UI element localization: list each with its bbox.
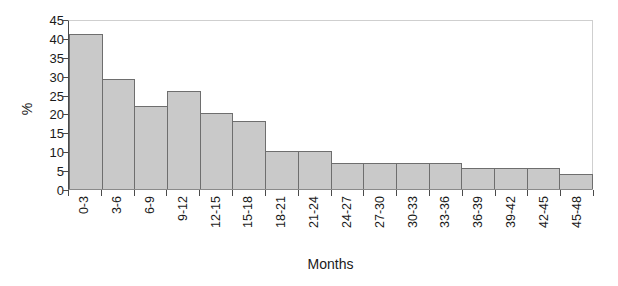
x-axis-tick-label-slot: 39-42 (494, 196, 528, 252)
plot-area (68, 20, 593, 190)
bar (102, 79, 136, 189)
y-axis-tick-label: 0 (40, 184, 64, 197)
x-axis-tick-label: 0-3 (78, 196, 91, 214)
x-axis-tick-label-slot: 12-15 (199, 196, 233, 252)
x-axis-tick-label-slot: 30-33 (396, 196, 430, 252)
bar (134, 106, 168, 189)
x-axis-tick-label-slot: 9-12 (166, 196, 200, 252)
y-axis-tick-label: 35 (40, 51, 64, 64)
y-axis-tick-label: 10 (40, 146, 64, 159)
y-axis-tick-label: 45 (40, 14, 64, 27)
x-axis-tick-label: 21-24 (308, 196, 321, 228)
bar (298, 151, 332, 189)
bar-chart: % 454035302520151050 0-33-66-99-1212-151… (0, 0, 618, 286)
bar (331, 163, 365, 189)
bar (200, 113, 234, 189)
bar (527, 168, 561, 189)
bar (363, 163, 397, 189)
bar-series (69, 21, 592, 189)
bar (265, 151, 299, 189)
y-axis-tick-label: 20 (40, 108, 64, 121)
x-axis-tick-label: 45-48 (570, 196, 583, 228)
y-axis-tick-label: 25 (40, 89, 64, 102)
x-axis-tick-label: 9-12 (176, 196, 189, 221)
bar (232, 121, 266, 189)
x-axis-tick-label-slot: 21-24 (297, 196, 331, 252)
x-axis-tick-label-slot: 36-39 (461, 196, 495, 252)
y-axis-tick-label: 40 (40, 32, 64, 45)
x-axis-tick-label: 27-30 (373, 196, 386, 228)
x-axis-tick-label: 3-6 (111, 196, 124, 214)
bar (461, 168, 495, 189)
bar (429, 163, 463, 189)
x-axis-tick-label: 42-45 (537, 196, 550, 228)
x-axis-tick-labels: 0-33-66-99-1212-1515-1818-2121-2424-2727… (68, 196, 593, 252)
y-axis-tick-labels: 454035302520151050 (40, 12, 64, 196)
x-axis-tick-label: 33-36 (439, 196, 452, 228)
x-axis-tick-label: 39-42 (504, 196, 517, 228)
y-axis-tick-label: 15 (40, 127, 64, 140)
bar (559, 174, 593, 189)
bar (167, 91, 201, 189)
x-axis-tick-label-slot: 15-18 (231, 196, 265, 252)
x-axis-tick-label-slot: 45-48 (560, 196, 594, 252)
y-axis-title: % (10, 92, 44, 126)
x-axis-tick-label: 15-18 (242, 196, 255, 228)
x-axis-tick-label: 18-21 (275, 196, 288, 228)
x-axis-tick-label-slot: 33-36 (428, 196, 462, 252)
bar (494, 168, 528, 189)
x-axis-tick-label-slot: 27-30 (363, 196, 397, 252)
x-axis-tick-label: 12-15 (209, 196, 222, 228)
x-axis-tick-label-slot: 42-45 (527, 196, 561, 252)
x-axis-tick-label: 36-39 (472, 196, 485, 228)
x-axis-tick-label-slot: 0-3 (67, 196, 101, 252)
x-axis-tick-label: 30-33 (406, 196, 419, 228)
bar (69, 34, 103, 189)
bar (396, 163, 430, 189)
x-axis-title: Months (68, 256, 593, 272)
x-axis-tick-label-slot: 18-21 (264, 196, 298, 252)
y-axis-tick-label: 30 (40, 70, 64, 83)
x-axis-tick-label-slot: 24-27 (330, 196, 364, 252)
x-axis-tick-label-slot: 6-9 (133, 196, 167, 252)
x-axis-tick-label-slot: 3-6 (100, 196, 134, 252)
x-axis-tick-label: 24-27 (340, 196, 353, 228)
y-axis-tick-label: 5 (40, 165, 64, 178)
x-axis-tick-label: 6-9 (144, 196, 157, 214)
